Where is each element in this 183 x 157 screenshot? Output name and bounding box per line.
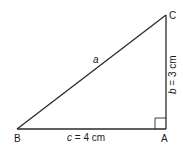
side-b-value: = 3 cm — [167, 55, 178, 88]
side-c-label: c = 4 cm — [67, 132, 105, 143]
side-c-value: = 4 cm — [72, 132, 105, 143]
vertex-label-a: A — [161, 133, 168, 144]
vertex-label-b: B — [14, 133, 21, 144]
side-a-label: a — [93, 54, 99, 65]
right-triangle-diagram: B A C a c = 4 cm b = 3 cm — [0, 0, 183, 157]
right-angle-marker — [155, 118, 166, 129]
vertex-label-c: C — [169, 10, 176, 21]
side-b-label: b = 3 cm — [167, 55, 178, 94]
side-a-hypotenuse-line — [17, 15, 166, 129]
